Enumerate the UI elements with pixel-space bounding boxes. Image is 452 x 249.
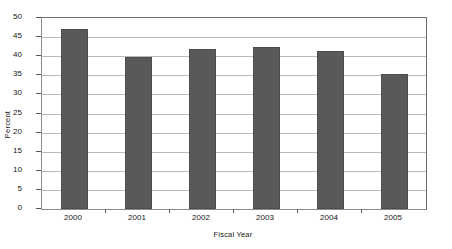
gridline bbox=[42, 171, 426, 172]
x-axis-title: Fiscal Year bbox=[41, 230, 425, 239]
y-axis-tick-label: 5 bbox=[0, 185, 22, 193]
y-axis-tick-label: 10 bbox=[0, 166, 22, 174]
x-axis-tick-mark bbox=[105, 209, 106, 213]
x-axis-tick-label: 2003 bbox=[235, 213, 295, 222]
gridline bbox=[42, 190, 426, 191]
x-axis-tick-label: 2002 bbox=[171, 213, 231, 222]
bar bbox=[61, 29, 88, 209]
y-axis-tick-label: 15 bbox=[0, 147, 22, 155]
gridline bbox=[42, 114, 426, 115]
y-axis-tick-label: 35 bbox=[0, 70, 22, 78]
x-axis-tick-label: 2004 bbox=[299, 213, 359, 222]
x-axis-tick-label: 2005 bbox=[363, 213, 423, 222]
y-axis-tick-label: 45 bbox=[0, 32, 22, 40]
bar bbox=[381, 74, 408, 209]
gridline bbox=[42, 152, 426, 153]
y-axis-tick-label: 20 bbox=[0, 128, 22, 136]
gridline bbox=[42, 75, 426, 76]
bar bbox=[253, 47, 280, 209]
gridline bbox=[42, 56, 426, 57]
plot-area bbox=[41, 17, 427, 210]
gridline bbox=[42, 94, 426, 95]
x-axis-tick-mark bbox=[297, 209, 298, 213]
bar bbox=[125, 57, 152, 209]
x-axis-tick-label: 2001 bbox=[107, 213, 167, 222]
y-axis-tick-label: 25 bbox=[0, 109, 22, 117]
gridline bbox=[42, 133, 426, 134]
x-axis-tick-mark bbox=[233, 209, 234, 213]
x-axis-tick-mark bbox=[361, 209, 362, 213]
x-axis-tick-mark bbox=[169, 209, 170, 213]
gridline bbox=[42, 37, 426, 38]
y-axis-tick-label: 40 bbox=[0, 51, 22, 59]
y-axis-tick-label: 50 bbox=[0, 13, 22, 21]
y-axis-tick-label: 30 bbox=[0, 89, 22, 97]
bar bbox=[189, 49, 216, 209]
bar bbox=[317, 51, 344, 209]
x-axis-tick-label: 2000 bbox=[43, 213, 103, 222]
bar-chart-figure: Percent 05101520253035404550 20002001200… bbox=[0, 0, 452, 249]
y-axis-tick-label: 0 bbox=[0, 204, 22, 212]
